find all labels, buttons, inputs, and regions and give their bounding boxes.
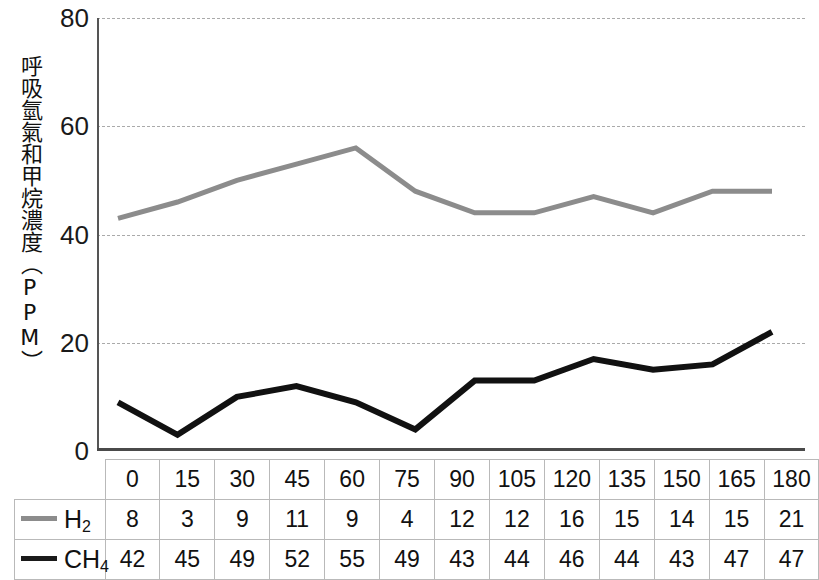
- cell-h2-150: 14: [654, 500, 709, 540]
- series-lines: [97, 18, 805, 451]
- column-header-45: 45: [270, 460, 325, 500]
- column-header-60: 60: [325, 460, 380, 500]
- cell-h2-75: 4: [380, 500, 435, 540]
- column-header-120: 120: [544, 460, 599, 500]
- table-row: CH442454952554943444644434747: [15, 540, 819, 580]
- data-table: 0153045607590105120135150165180H28391194…: [14, 459, 819, 580]
- table-header-row: 0153045607590105120135150165180: [15, 460, 819, 500]
- legend-series-label: H2: [64, 505, 91, 534]
- table-row: H2839119412121615141521: [15, 500, 819, 540]
- column-header-150: 150: [654, 460, 709, 500]
- column-header-0: 0: [105, 460, 160, 500]
- cell-ch4-15: 45: [160, 540, 215, 580]
- legend-series-subscript: 2: [82, 518, 91, 535]
- cell-ch4-105: 44: [489, 540, 544, 580]
- column-header-75: 75: [380, 460, 435, 500]
- legend-item-ch4: CH4: [15, 540, 106, 580]
- upper-gray-line: [118, 148, 772, 218]
- column-header-90: 90: [435, 460, 490, 500]
- cell-ch4-30: 49: [215, 540, 270, 580]
- cell-ch4-120: 46: [544, 540, 599, 580]
- y-tick-label-60: 60: [31, 111, 89, 142]
- column-header-105: 105: [489, 460, 544, 500]
- data-table-container: 0153045607590105120135150165180H28391194…: [14, 459, 805, 580]
- cell-h2-45: 11: [270, 500, 325, 540]
- plot-area: 020406080: [97, 18, 805, 451]
- cell-h2-105: 12: [489, 500, 544, 540]
- cell-h2-30: 9: [215, 500, 270, 540]
- cell-h2-135: 15: [599, 500, 654, 540]
- cell-ch4-135: 44: [599, 540, 654, 580]
- column-header-180: 180: [764, 460, 819, 500]
- column-header-135: 135: [599, 460, 654, 500]
- legend-line-swatch-icon: [21, 556, 57, 561]
- y-tick-label-40: 40: [31, 219, 89, 250]
- cell-h2-90: 12: [435, 500, 490, 540]
- cell-h2-0: 8: [105, 500, 160, 540]
- cell-ch4-0: 42: [105, 540, 160, 580]
- legend-series-subscript: 4: [100, 558, 109, 575]
- y-axis-title-text: 呼吸氫氣和甲烷濃度（PPM）: [18, 55, 40, 372]
- cell-ch4-75: 49: [380, 540, 435, 580]
- column-header-15: 15: [160, 460, 215, 500]
- legend-series-label: CH4: [64, 545, 109, 574]
- cell-h2-180: 21: [764, 500, 819, 540]
- lower-black-line: [118, 332, 772, 435]
- cell-ch4-60: 55: [325, 540, 380, 580]
- column-header-30: 30: [215, 460, 270, 500]
- column-header-165: 165: [709, 460, 764, 500]
- cell-h2-120: 16: [544, 500, 599, 540]
- cell-ch4-150: 43: [654, 540, 709, 580]
- cell-h2-165: 15: [709, 500, 764, 540]
- table-corner-cell: [15, 460, 106, 500]
- cell-ch4-45: 52: [270, 540, 325, 580]
- y-tick-label-20: 20: [31, 327, 89, 358]
- cell-ch4-165: 47: [709, 540, 764, 580]
- cell-h2-60: 9: [325, 500, 380, 540]
- cell-h2-15: 3: [160, 500, 215, 540]
- cell-ch4-180: 47: [764, 540, 819, 580]
- legend-item-h2: H2: [15, 500, 106, 540]
- y-tick-label-80: 80: [31, 3, 89, 34]
- legend-line-swatch-icon: [21, 516, 57, 521]
- cell-ch4-90: 43: [435, 540, 490, 580]
